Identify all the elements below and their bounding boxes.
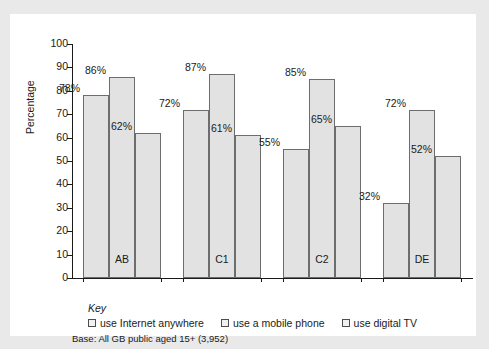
key-item-label: use digital TV xyxy=(354,317,417,329)
bar-value-label: 85% xyxy=(285,66,306,78)
bar xyxy=(83,95,109,278)
bar-value-label: 65% xyxy=(311,113,332,125)
bar-value-label: 87% xyxy=(185,61,206,73)
key-title: Key xyxy=(88,302,434,314)
y-tick-label: 20 xyxy=(56,224,68,237)
x-tick-mark xyxy=(83,278,84,282)
y-tick-label: 40 xyxy=(56,177,68,190)
y-axis-title: Percentage xyxy=(24,80,36,134)
key-item: use Internet anywhere xyxy=(88,317,204,329)
bar-value-label: 32% xyxy=(359,190,380,202)
x-tick-mark xyxy=(383,278,384,282)
y-tick-label: 90 xyxy=(56,60,68,73)
chart-figure: Percentage 1009080706050403020100 78%86%… xyxy=(10,14,476,336)
y-tick-label: 60 xyxy=(56,131,68,144)
key-swatch-icon xyxy=(221,319,229,327)
bar-value-label: 61% xyxy=(211,122,232,134)
key-item: use digital TV xyxy=(342,317,417,329)
key-items: use Internet anywhereuse a mobile phoneu… xyxy=(88,317,434,329)
x-tick-mark xyxy=(183,278,184,282)
y-tick-label: 100 xyxy=(50,37,68,50)
key-swatch-icon xyxy=(342,319,350,327)
x-category-label-c2: C2 xyxy=(283,253,361,265)
bar-value-label: 72% xyxy=(385,97,406,109)
bar-value-label: 78% xyxy=(59,82,80,94)
chart-key: Key use Internet anywhereuse a mobile ph… xyxy=(88,302,434,329)
x-category-label-c1: C1 xyxy=(183,253,261,265)
y-tick-label: 30 xyxy=(56,201,68,214)
x-tick-mark xyxy=(161,278,162,282)
bar-value-label: 86% xyxy=(85,64,106,76)
x-tick-mark xyxy=(283,278,284,282)
base-note: Base: All GB public aged 15+ (3,952) xyxy=(72,333,228,344)
y-tick-label: 0 xyxy=(62,271,68,284)
x-axis-line xyxy=(72,278,473,279)
bar-value-label: 55% xyxy=(259,136,280,148)
bar-value-label: 62% xyxy=(111,120,132,132)
key-item-label: use a mobile phone xyxy=(233,317,325,329)
key-item-label: use Internet anywhere xyxy=(100,317,204,329)
bar xyxy=(209,74,235,278)
x-category-label-de: DE xyxy=(383,253,461,265)
bar-value-label: 52% xyxy=(411,143,432,155)
y-tick-label: 50 xyxy=(56,154,68,167)
key-item: use a mobile phone xyxy=(221,317,325,329)
x-tick-mark xyxy=(261,278,262,282)
bar xyxy=(383,203,409,278)
plot-area: 1009080706050403020100 78%86%62%72%87%61… xyxy=(72,44,472,278)
key-swatch-icon xyxy=(88,319,96,327)
x-category-label-ab: AB xyxy=(83,253,161,265)
bar xyxy=(109,77,135,278)
y-tick-label: 10 xyxy=(56,248,68,261)
x-tick-mark xyxy=(361,278,362,282)
x-tick-mark xyxy=(461,278,462,282)
bar-value-label: 72% xyxy=(159,97,180,109)
bar xyxy=(309,79,335,278)
y-tick-label: 70 xyxy=(56,107,68,120)
